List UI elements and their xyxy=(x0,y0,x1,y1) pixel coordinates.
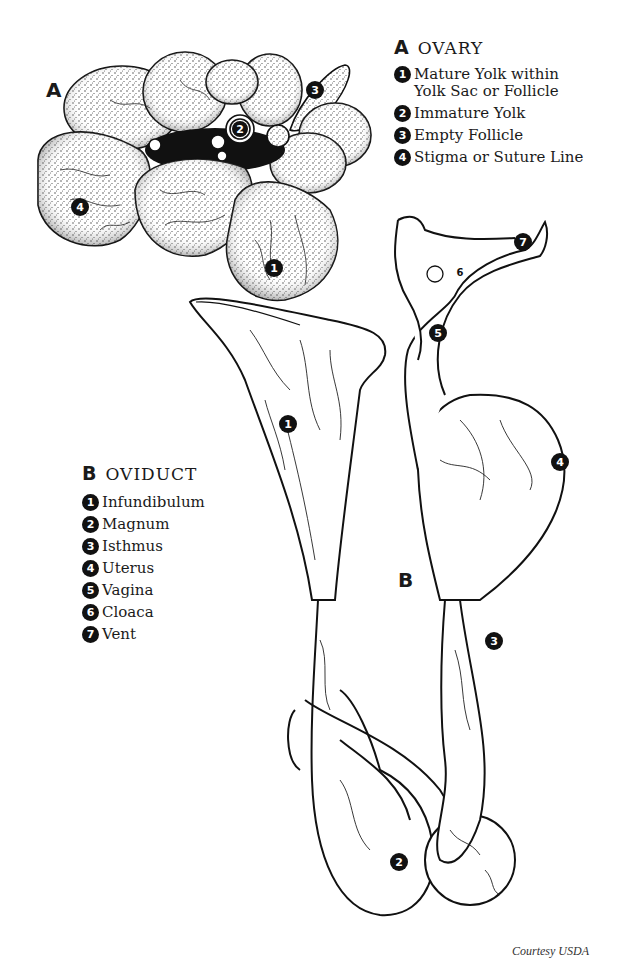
ovary-legend-title: A OVARY xyxy=(394,36,624,58)
oviduct-legend-item: 5 Vagina xyxy=(82,582,242,599)
svg-text:7: 7 xyxy=(519,236,527,249)
oviduct-legend-title: B OVIDUCT xyxy=(82,462,242,484)
svg-text:3: 3 xyxy=(311,84,319,97)
ovary-legend: A OVARY 1 Mature Yolk within Yolk Sac or… xyxy=(394,36,624,171)
oviduct-legend-item: 3 Isthmus xyxy=(82,538,242,555)
image-credit: Courtesy USDA xyxy=(512,944,589,959)
oviduct-callout-2: 2 xyxy=(390,853,408,871)
oviduct-callout-3: 3 xyxy=(485,632,503,650)
number-badge-icon: 1 xyxy=(394,66,411,83)
oviduct-legend-item: 6 Cloaca xyxy=(82,604,242,621)
ovary-legend-item: 4 Stigma or Suture Line xyxy=(394,149,624,166)
svg-text:1: 1 xyxy=(270,262,278,275)
number-badge-icon: 3 xyxy=(82,538,99,555)
number-badge-icon: 2 xyxy=(394,105,411,122)
number-badge-icon: 5 xyxy=(82,582,99,599)
oviduct-callout-1: 1 xyxy=(279,415,297,433)
oviduct-legend-item: 2 Magnum xyxy=(82,516,242,533)
oviduct-callout-5: 5 xyxy=(429,324,447,342)
number-badge-icon: 6 xyxy=(82,604,99,621)
svg-text:4: 4 xyxy=(556,456,564,469)
number-badge-icon: 3 xyxy=(394,127,411,144)
oviduct-legend: B OVIDUCT 1 Infundibulum 2 Magnum 3 Isth… xyxy=(82,462,242,648)
oviduct-callout-6: 6 xyxy=(457,267,464,278)
number-badge-icon: 7 xyxy=(82,626,99,643)
oviduct-legend-item: 7 Vent xyxy=(82,626,242,643)
oviduct-legend-item: 4 Uterus xyxy=(82,560,242,577)
svg-text:3: 3 xyxy=(490,635,498,648)
ovary-diagram-letter: A xyxy=(46,78,61,102)
svg-text:2: 2 xyxy=(236,123,244,136)
svg-text:5: 5 xyxy=(434,327,442,340)
ovary-callout-2: 2 xyxy=(232,121,248,137)
number-badge-icon: 2 xyxy=(82,516,99,533)
ovary-legend-item: 2 Immature Yolk xyxy=(394,105,624,122)
ovary-callout-4: 4 xyxy=(71,198,89,216)
oviduct-callout-4: 4 xyxy=(551,453,569,471)
svg-text:1: 1 xyxy=(284,418,292,431)
ovary-callout-3: 3 xyxy=(306,81,324,99)
svg-text:6: 6 xyxy=(457,267,464,278)
oviduct-legend-item: 1 Infundibulum xyxy=(82,494,242,511)
oviduct-callout-7: 7 xyxy=(514,233,532,251)
number-badge-icon: 4 xyxy=(82,560,99,577)
svg-text:4: 4 xyxy=(76,201,84,214)
ovary-legend-item: 1 Mature Yolk within Yolk Sac or Follicl… xyxy=(394,66,624,100)
oviduct-diagram xyxy=(190,217,564,915)
ovary-callout-1: 1 xyxy=(265,259,283,277)
svg-text:2: 2 xyxy=(395,856,403,869)
number-badge-icon: 4 xyxy=(394,149,411,166)
oviduct-diagram-letter: B xyxy=(398,568,413,592)
ovary-legend-item: 3 Empty Follicle xyxy=(394,127,624,144)
number-badge-icon: 1 xyxy=(82,494,99,511)
